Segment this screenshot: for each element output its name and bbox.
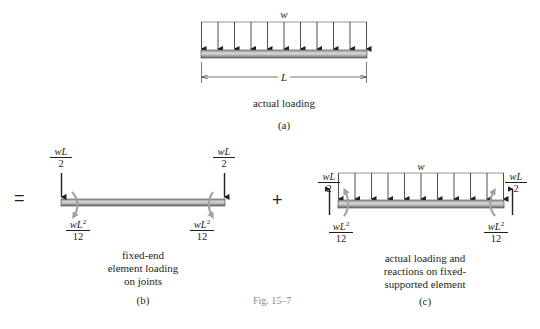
right-moment-label: wL2 12 [484, 219, 508, 244]
panel-a-tag: (a) [264, 119, 304, 132]
right-reaction-label: wL 2 [505, 171, 527, 194]
panel-b-diagram [61, 173, 225, 216]
figure-caption: Fig. 15–7 [253, 295, 291, 306]
distributed-load-arrows [202, 22, 367, 49]
beam-c [338, 200, 504, 208]
beam-a [201, 50, 367, 58]
left-force-label: wL 2 [50, 146, 72, 169]
equals-sign: = [14, 188, 25, 209]
left-moment-label: wL2 12 [66, 217, 90, 242]
left-reaction-label: wL 2 [318, 171, 340, 194]
right-force-label: wL 2 [213, 146, 235, 169]
panel-c-diagram [330, 173, 513, 216]
distributed-load-arrows [339, 173, 504, 199]
panel-b-description: fixed-end element loading on joints [93, 249, 193, 288]
plus-sign: + [272, 190, 283, 211]
panel-a-description: actual loading [224, 97, 344, 110]
left-moment-label: wL2 12 [329, 219, 353, 244]
load-intensity-label: w [278, 8, 290, 20]
load-intensity-label: w [415, 160, 427, 172]
panel-b-tag: (b) [123, 294, 163, 307]
panel-c-tag: (c) [405, 295, 445, 308]
span-length-label: L [278, 71, 290, 83]
panel-c-description: actual loading and reactions on fixed- s… [366, 252, 484, 291]
right-moment-label: wL2 12 [190, 217, 214, 242]
beam-b [61, 199, 225, 206]
